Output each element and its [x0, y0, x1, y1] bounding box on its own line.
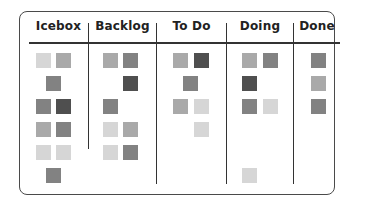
task-card[interactable]	[123, 145, 138, 160]
task-card[interactable]	[173, 99, 188, 114]
task-card[interactable]	[242, 99, 257, 114]
task-card[interactable]	[56, 99, 71, 114]
task-card[interactable]	[103, 145, 118, 160]
task-card[interactable]	[46, 76, 61, 91]
task-card[interactable]	[123, 76, 138, 91]
column-divider	[156, 23, 157, 184]
task-card[interactable]	[103, 99, 118, 114]
column-divider	[88, 23, 89, 149]
task-card[interactable]	[263, 53, 278, 68]
column-divider	[226, 23, 227, 184]
column-title-done: Done	[294, 19, 340, 33]
column-title-icebox: Icebox	[29, 19, 88, 33]
task-card[interactable]	[173, 53, 188, 68]
task-card[interactable]	[194, 122, 209, 137]
column-title-backlog: Backlog	[89, 19, 156, 33]
task-card[interactable]	[242, 53, 257, 68]
task-card[interactable]	[263, 99, 278, 114]
column-divider	[293, 23, 294, 184]
task-card[interactable]	[311, 76, 326, 91]
task-card[interactable]	[46, 168, 61, 183]
task-card[interactable]	[103, 53, 118, 68]
task-card[interactable]	[123, 53, 138, 68]
task-card[interactable]	[103, 122, 118, 137]
task-card[interactable]	[36, 122, 51, 137]
task-card[interactable]	[242, 76, 257, 91]
task-card[interactable]	[36, 145, 51, 160]
task-card[interactable]	[36, 53, 51, 68]
task-card[interactable]	[56, 145, 71, 160]
task-card[interactable]	[311, 99, 326, 114]
task-card[interactable]	[242, 168, 257, 183]
task-card[interactable]	[183, 76, 198, 91]
task-card[interactable]	[56, 122, 71, 137]
task-card[interactable]	[36, 99, 51, 114]
task-card[interactable]	[194, 99, 209, 114]
column-title-todo: To Do	[157, 19, 226, 33]
task-card[interactable]	[123, 122, 138, 137]
task-card[interactable]	[56, 53, 71, 68]
task-card[interactable]	[194, 53, 209, 68]
column-title-doing: Doing	[227, 19, 293, 33]
task-card[interactable]	[311, 53, 326, 68]
